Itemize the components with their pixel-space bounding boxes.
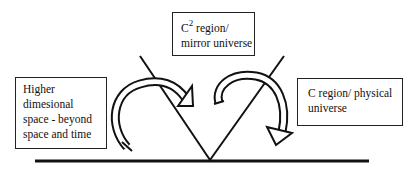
left-box-line-1: Higher <box>23 82 99 97</box>
right-curved-arrow-icon <box>214 75 292 145</box>
mirror-universe-box: C2 region/ mirror universe <box>172 12 255 56</box>
right-box-line-1: C region/ physical <box>308 86 392 101</box>
left-box-line-3: space - beyond <box>23 112 99 127</box>
top-box-line-1: C2 region/ <box>181 16 246 36</box>
region-label: region/ <box>193 22 228 34</box>
right-box-line-2: universe <box>308 101 392 116</box>
top-box-line-2: mirror universe <box>181 36 246 51</box>
left-box-line-4: space and time <box>23 127 99 142</box>
left-box-line-2: dimesional <box>23 97 99 112</box>
physical-universe-box: C region/ physical universe <box>297 78 403 126</box>
c-label: C <box>181 22 189 34</box>
v-line-left <box>140 56 210 160</box>
higher-dimensional-space-box: Higher dimesional space - beyond space a… <box>15 77 107 149</box>
